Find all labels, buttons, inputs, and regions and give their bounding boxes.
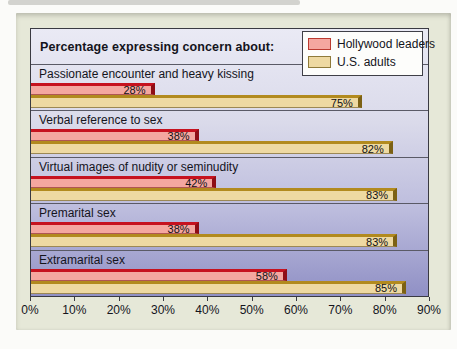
bar-value-label: 42% [185, 179, 207, 187]
axis-tick-label: 0% [21, 303, 38, 317]
axis-tick-label: 90% [417, 303, 441, 317]
legend-entry: U.S. adults [308, 53, 417, 71]
bar-u-s-adults: 83% [31, 188, 397, 201]
bar-u-s-adults: 85% [31, 281, 406, 294]
bar-value-label: 38% [168, 132, 190, 140]
bar-value-label: 75% [331, 99, 353, 107]
bar-value-label: 82% [362, 145, 384, 153]
scan-artifact [8, 0, 300, 5]
chart-row: Premarital sex38%83% [31, 204, 428, 250]
legend-swatch-icon [308, 38, 331, 50]
axis-tick [252, 297, 253, 301]
legend-entry: Hollywood leaders [308, 35, 417, 53]
bar-u-s-adults: 82% [31, 141, 393, 154]
axis-tick-label: 70% [328, 303, 352, 317]
category-label: Premarital sex [31, 204, 428, 222]
axis-tick [30, 297, 31, 301]
bar-hollywood-leaders: 38% [31, 222, 199, 234]
chart-legend: Hollywood leadersU.S. adults [302, 31, 423, 76]
x-axis: 0%10%20%30%40%50%60%70%80%90% [30, 297, 429, 321]
legend-swatch-icon [308, 56, 331, 68]
chart-row: Virtual images of nudity or seminudity42… [31, 158, 428, 204]
axis-tick-label: 30% [151, 303, 175, 317]
bar-hollywood-leaders: 42% [31, 176, 216, 188]
bar-u-s-adults: 83% [31, 234, 397, 247]
bar-value-label: 83% [366, 238, 388, 246]
bar-value-label: 28% [123, 86, 145, 94]
axis-tick [163, 297, 164, 301]
category-label: Virtual images of nudity or seminudity [31, 158, 428, 176]
legend-label: U.S. adults [337, 55, 396, 69]
axis-tick [207, 297, 208, 301]
bar-hollywood-leaders: 38% [31, 129, 199, 141]
chart-row: Extramarital sex58%85% [31, 251, 428, 296]
chart-row: Verbal reference to sex38%82% [31, 111, 428, 157]
axis-tick [296, 297, 297, 301]
axis-tick-label: 50% [240, 303, 264, 317]
chart-rows: Passionate encounter and heavy kissing28… [31, 65, 428, 296]
axis-tick [340, 297, 341, 301]
bar-value-label: 83% [366, 191, 388, 199]
axis-tick [74, 297, 75, 301]
bar-value-label: 85% [375, 284, 397, 292]
legend-label: Hollywood leaders [337, 37, 435, 51]
bar-hollywood-leaders: 58% [31, 269, 287, 281]
bar-hollywood-leaders: 28% [31, 83, 155, 95]
chart-title: Percentage expressing concern about: [40, 40, 274, 54]
bar-u-s-adults: 75% [31, 95, 362, 108]
axis-tick [119, 297, 120, 301]
axis-tick [385, 297, 386, 301]
axis-tick-label: 10% [62, 303, 86, 317]
bar-value-label: 58% [256, 272, 278, 280]
axis-tick-label: 80% [373, 303, 397, 317]
axis-tick [429, 297, 430, 301]
category-label: Extramarital sex [31, 251, 428, 269]
axis-tick-label: 40% [195, 303, 219, 317]
axis-tick-label: 60% [284, 303, 308, 317]
bar-value-label: 38% [168, 225, 190, 233]
axis-tick-label: 20% [107, 303, 131, 317]
category-label: Verbal reference to sex [31, 111, 428, 129]
